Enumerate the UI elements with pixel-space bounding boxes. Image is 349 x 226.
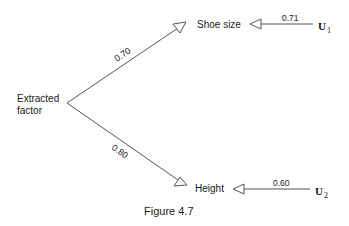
factor-label-line1: Extracted (17, 93, 59, 104)
error-path-u2: 0.60 U2 (233, 178, 328, 200)
arrowhead-shoe-size-icon (173, 22, 186, 33)
path-diagram: Extracted factor 0.70 0.80 Shoe size 0.7… (0, 0, 349, 226)
error-loading-u1: 0.71 (282, 13, 299, 23)
figure-caption: Figure 4.7 (144, 205, 194, 217)
factor-node: Extracted factor (17, 93, 59, 116)
factor-label-line2: factor (17, 105, 43, 116)
error-path-u1: 0.71 U1 (250, 13, 331, 35)
error-term-u1: U1 (318, 20, 331, 35)
variable-shoe-size: Shoe size (197, 19, 241, 30)
path-factor-to-shoe-size: 0.70 (67, 22, 186, 103)
error-loading-u2: 0.60 (273, 178, 290, 188)
error-term-u2: U2 (315, 185, 328, 200)
arrowhead-u2-icon (233, 184, 244, 194)
path-factor-to-height: 0.80 (67, 103, 187, 186)
arrowhead-u1-icon (250, 19, 261, 29)
variable-height: Height (195, 183, 224, 194)
